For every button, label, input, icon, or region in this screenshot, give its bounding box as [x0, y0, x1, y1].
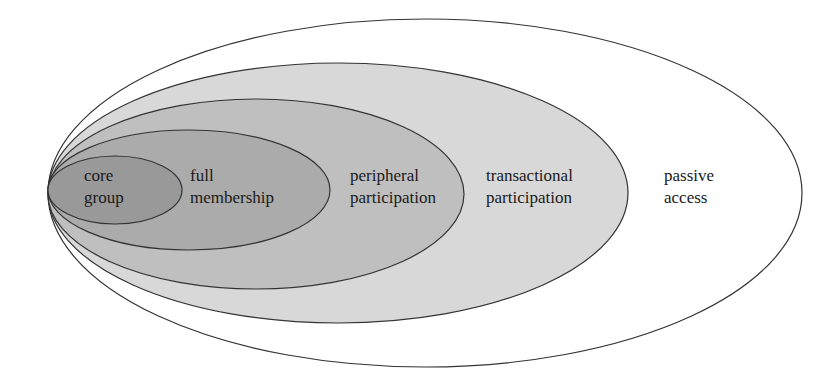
- community-participation-diagram: coregroup fullmembership peripheralparti…: [0, 0, 837, 391]
